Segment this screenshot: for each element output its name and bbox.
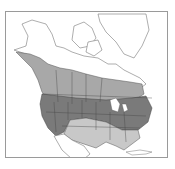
greenland-landmass bbox=[98, 14, 149, 58]
north-america-range-map bbox=[6, 12, 168, 158]
arctic-islands-2 bbox=[86, 40, 102, 56]
caribbean-islands bbox=[126, 150, 152, 155]
map-frame bbox=[5, 11, 168, 158]
